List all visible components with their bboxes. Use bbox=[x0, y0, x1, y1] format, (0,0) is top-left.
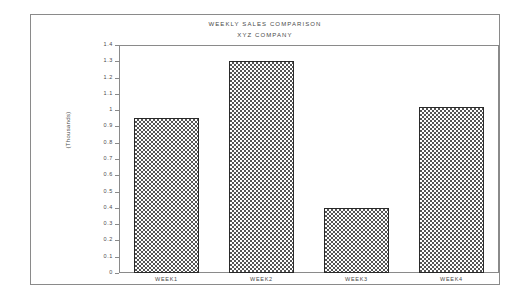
y-axis-ticks: 1.41.31.21.110.90.80.70.60.50.40.30.20.1… bbox=[31, 45, 119, 273]
bar bbox=[229, 61, 294, 273]
chart-outer-frame: WEEKLY SALES COMPARISON XYZ COMPANY (Tho… bbox=[30, 14, 500, 285]
y-axis-tick-label: 0.7 bbox=[104, 155, 113, 161]
y-axis-tick-label: 0.9 bbox=[104, 122, 113, 128]
bar bbox=[324, 208, 389, 273]
chart-subtitle: XYZ COMPANY bbox=[31, 32, 499, 38]
y-axis-tick-label: 0.6 bbox=[104, 171, 113, 177]
x-axis-tick-label: WEEK2 bbox=[214, 276, 309, 282]
y-axis-tick-label: 0 bbox=[109, 269, 113, 275]
bar bbox=[134, 118, 199, 273]
x-axis-tick-label: WEEK3 bbox=[309, 276, 404, 282]
y-axis-tick-label: 1.2 bbox=[104, 74, 113, 80]
x-axis-labels: WEEK1WEEK2WEEK3WEEK4 bbox=[119, 276, 499, 290]
y-axis-tick-label: 1.3 bbox=[104, 57, 113, 63]
bar bbox=[419, 107, 484, 273]
y-axis-tick-label: 0.3 bbox=[104, 220, 113, 226]
chart-title: WEEKLY SALES COMPARISON bbox=[31, 21, 499, 27]
y-axis-tick-label: 0.1 bbox=[104, 253, 113, 259]
y-axis-tick-mark bbox=[115, 273, 119, 274]
y-axis-tick-label: 0.5 bbox=[104, 188, 113, 194]
y-axis-tick-label: 1.4 bbox=[104, 41, 113, 47]
x-axis-tick-label: WEEK4 bbox=[404, 276, 499, 282]
x-axis-tick-label: WEEK1 bbox=[119, 276, 214, 282]
y-axis-tick-label: 0.8 bbox=[104, 139, 113, 145]
y-axis-tick-label: 1.1 bbox=[104, 90, 113, 96]
y-axis-tick-label: 1 bbox=[109, 106, 113, 112]
y-axis-tick-label: 0.4 bbox=[104, 204, 113, 210]
bars-layer bbox=[119, 45, 499, 273]
y-axis-tick-label: 0.2 bbox=[104, 236, 113, 242]
